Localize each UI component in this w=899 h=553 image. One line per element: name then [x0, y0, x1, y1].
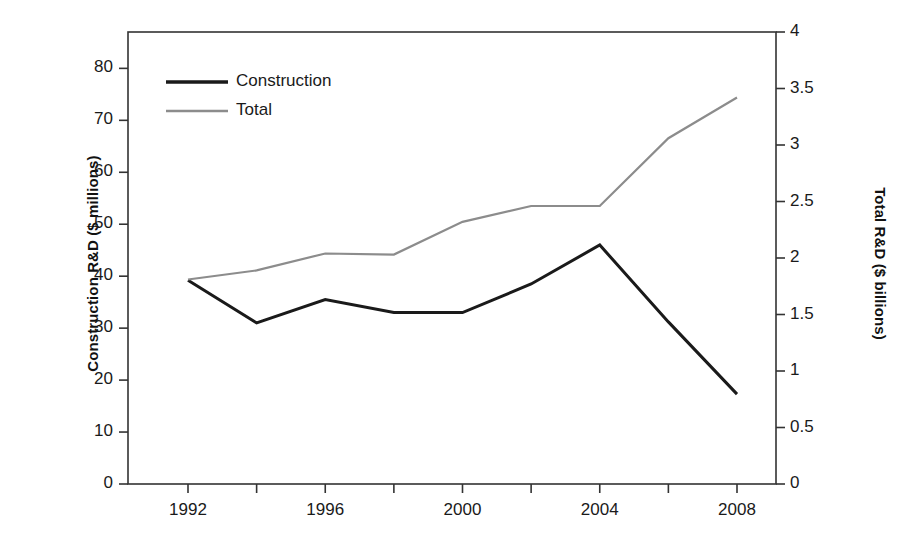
y-axis-left-ticks — [119, 68, 128, 484]
y-axis-left-tick-label: 70 — [53, 109, 113, 129]
y-axis-right-tick-label: 4 — [790, 21, 850, 41]
legend-label-construction: Construction — [236, 71, 331, 91]
y-axis-left-tick-label: 80 — [53, 57, 113, 77]
series-line-total — [188, 98, 737, 280]
y-axis-left-tick-label: 10 — [53, 421, 113, 441]
data-series-lines — [188, 98, 737, 395]
y-axis-right-tick-label: 0.5 — [790, 417, 850, 437]
x-axis-tick-label: 1996 — [285, 500, 365, 520]
y-axis-right-tick-label: 2.5 — [790, 191, 850, 211]
x-axis-tick-label: 2004 — [560, 500, 640, 520]
y-axis-left-tick-label: 20 — [53, 369, 113, 389]
plot-area — [0, 0, 899, 553]
x-axis-ticks — [188, 484, 737, 493]
y-axis-left-tick-label: 60 — [53, 161, 113, 181]
x-axis-tick-label: 1992 — [148, 500, 228, 520]
y-axis-left-tick-label: 50 — [53, 213, 113, 233]
plot-border — [128, 32, 776, 484]
x-axis-tick-label: 2000 — [423, 500, 503, 520]
y-axis-left-tick-label: 30 — [53, 317, 113, 337]
chart-figure: Construction R&D ($ millions) Total R&D … — [0, 0, 899, 553]
y-axis-right-ticks — [776, 32, 785, 484]
y-axis-left-tick-label: 40 — [53, 265, 113, 285]
plot-frame — [128, 32, 776, 484]
y-axis-right-tick-label: 1.5 — [790, 304, 850, 324]
x-axis-tick-label: 2008 — [697, 500, 777, 520]
legend-swatches — [166, 82, 228, 111]
y-axis-right-tick-label: 1 — [790, 360, 850, 380]
y-axis-right-tick-label: 3.5 — [790, 78, 850, 98]
legend-label-total: Total — [236, 100, 272, 120]
y-axis-right-tick-label: 3 — [790, 134, 850, 154]
y-axis-right-tick-label: 2 — [790, 247, 850, 267]
y-axis-left-tick-label: 0 — [53, 473, 113, 493]
y-axis-right-tick-label: 0 — [790, 473, 850, 493]
